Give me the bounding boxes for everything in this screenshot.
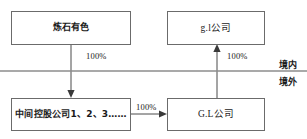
node-offshore-bottom-label: G.L公司 (198, 109, 234, 119)
node-holding-chain-label: 中间控股公司1、2、3…… (15, 110, 126, 120)
node-parent-domestic: 炼石有色 (11, 11, 131, 45)
node-parent-domestic-label: 炼石有色 (53, 23, 90, 33)
edge-left-ownership-label: 100% (86, 51, 107, 61)
boundary-label-domestic: 境内 (279, 58, 298, 71)
edge-bottom-ownership-arrowhead (159, 110, 167, 117)
node-offshore-top: g.l公司 (167, 11, 265, 45)
boundary-label-offshore: 境外 (279, 75, 298, 88)
edge-right-ownership-label: 100% (227, 51, 248, 61)
node-offshore-top-label: g.l公司 (201, 23, 232, 33)
node-offshore-bottom: G.L公司 (167, 98, 265, 131)
edge-right-ownership-arrowhead (213, 44, 220, 52)
node-holding-chain: 中间控股公司1、2、3…… (11, 98, 131, 131)
org-structure-diagram: 炼石有色 g.l公司 中间控股公司1、2、3…… G.L公司 100% 100%… (0, 0, 307, 139)
edge-left-ownership-arrowhead (67, 90, 74, 98)
edge-bottom-ownership-label: 100% (136, 102, 157, 112)
